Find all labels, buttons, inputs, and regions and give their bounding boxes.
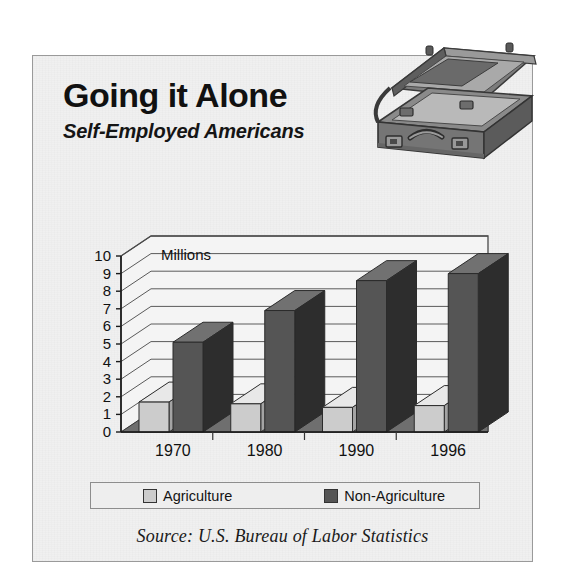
x-tick-label: 1980 xyxy=(247,442,283,459)
bar-front-face xyxy=(173,342,203,432)
page-title: Going it Alone xyxy=(63,78,363,114)
y-tick-label: 4 xyxy=(103,353,111,370)
bar-non-agriculture-1970 xyxy=(173,322,233,432)
x-axis-tick-labels: 1970198019901996 xyxy=(155,432,466,459)
headline-block: Going it Alone Self-Employed Americans xyxy=(63,78,363,143)
y-tick-label: 6 xyxy=(103,317,111,334)
open-briefcase-icon xyxy=(348,26,558,171)
legend-item-agriculture: Agriculture xyxy=(143,488,232,504)
x-tick-label: 1990 xyxy=(339,442,375,459)
bar-side-face xyxy=(478,254,508,432)
legend-swatch-agriculture xyxy=(143,489,157,503)
bar-side-face xyxy=(387,261,417,432)
legend-label-agriculture: Agriculture xyxy=(163,488,232,504)
y-tick-label: 8 xyxy=(103,282,111,299)
bar-front-face xyxy=(323,407,353,432)
bar-front-face xyxy=(231,404,261,432)
x-tick-label: 1970 xyxy=(155,442,191,459)
bar-non-agriculture-1990 xyxy=(357,261,417,432)
x-tick-label: 1996 xyxy=(430,442,466,459)
bar-front-face xyxy=(265,311,295,432)
bar-front-face xyxy=(414,406,444,432)
bar-front-face xyxy=(448,274,478,432)
y-tick-label: 2 xyxy=(103,388,111,405)
source-note: Source: U.S. Bureau of Labor Statistics xyxy=(33,526,532,547)
bar-front-face xyxy=(139,402,169,432)
y-tick-label: 1 xyxy=(103,405,111,422)
y-tick-label: 7 xyxy=(103,300,111,317)
legend-label-non-agriculture: Non-Agriculture xyxy=(344,488,445,504)
page-subtitle: Self-Employed Americans xyxy=(63,120,363,143)
unit-label: Millions xyxy=(161,246,211,263)
infographic-card: Going it Alone Self-Employed Americans xyxy=(32,55,533,562)
legend-swatch-non-agriculture xyxy=(324,489,338,503)
bar-front-face xyxy=(357,281,387,432)
legend-item-non-agriculture: Non-Agriculture xyxy=(324,488,445,504)
y-tick-label: 3 xyxy=(103,370,111,387)
chart-area: 012345678910 Millions 1970198019901996 xyxy=(33,174,532,474)
bar-side-face xyxy=(295,291,325,432)
y-tick-label: 10 xyxy=(94,247,111,264)
bar-non-agriculture-1996 xyxy=(448,254,508,432)
y-tick-label: 5 xyxy=(103,335,111,352)
y-tick-label: 0 xyxy=(103,423,111,440)
y-tick-label: 9 xyxy=(103,265,111,282)
bar-non-agriculture-1980 xyxy=(265,291,325,432)
bar-side-face xyxy=(203,322,233,432)
y-axis-tick-labels: 012345678910 xyxy=(94,247,111,440)
chart-legend: Agriculture Non-Agriculture xyxy=(90,482,480,509)
